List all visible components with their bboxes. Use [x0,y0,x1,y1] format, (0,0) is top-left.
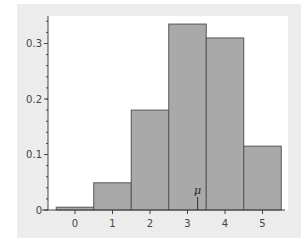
histogram-chart: 00.10.20.3012345μ [0,0,308,248]
bar-3 [169,24,207,210]
bar-5 [244,146,282,210]
x-tick-label: 2 [147,218,153,229]
bar-2 [131,110,169,210]
x-tick-label: 0 [72,218,78,229]
y-tick-label: 0.3 [26,38,42,49]
bar-1 [94,183,132,210]
y-tick-label: 0 [36,205,42,216]
x-tick-label: 5 [259,218,265,229]
bar-4 [206,38,244,210]
y-tick-label: 0.2 [26,94,42,105]
x-tick-label: 1 [109,218,115,229]
y-tick-label: 0.1 [26,149,42,160]
x-tick-label: 3 [184,218,190,229]
mean-label: μ [194,184,201,197]
x-tick-label: 4 [222,218,228,229]
